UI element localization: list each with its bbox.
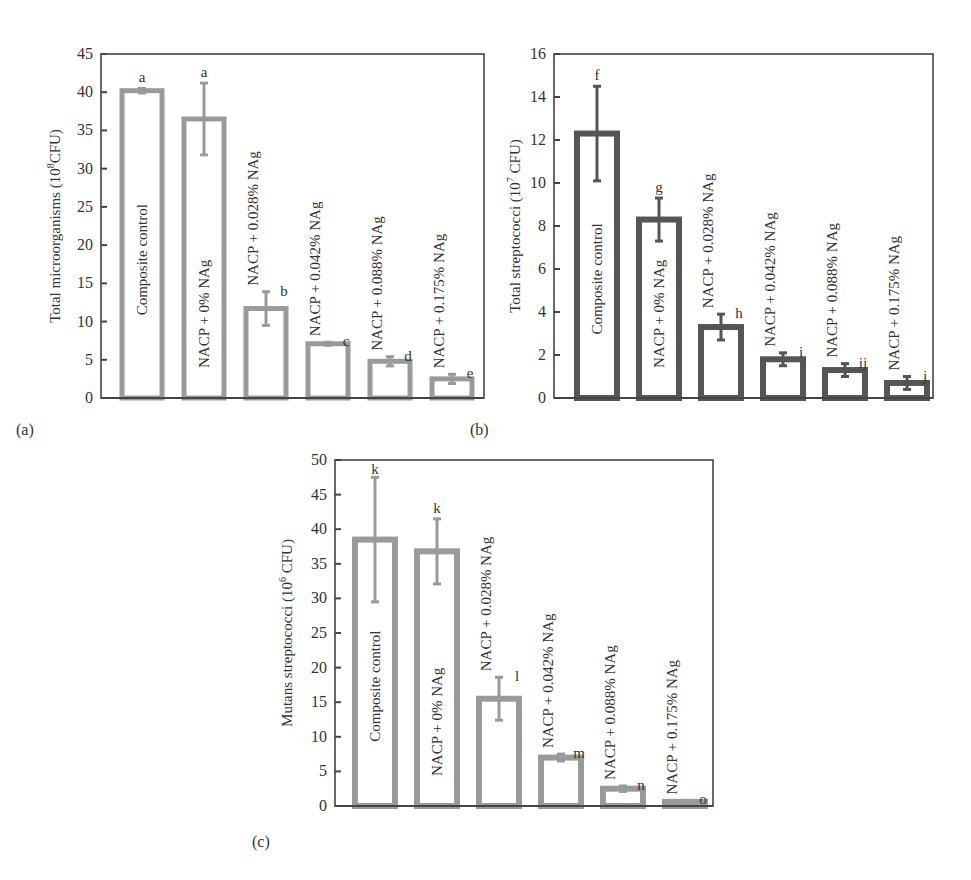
y-tick-label: 20	[311, 659, 327, 676]
chart-a: 051015202530354045Total microorganisms (…	[16, 45, 484, 439]
y-tick-label: 8	[538, 217, 546, 234]
panel-label: (a)	[16, 421, 34, 439]
bar-2: NACP + 0% NAga	[184, 64, 224, 398]
y-tick-label: 10	[77, 313, 93, 330]
bar-5: NACP + 0.088% NAgd	[369, 216, 412, 398]
y-tick-label: 0	[85, 389, 93, 406]
category-label: NACP + 0.028% NAg	[478, 536, 494, 671]
y-tick-label: 14	[530, 88, 546, 105]
y-tick-label: 30	[77, 160, 93, 177]
category-label: NACP + 0.088% NAg	[824, 223, 840, 358]
significance-letter: f	[595, 67, 600, 83]
bar-6: NACP + 0.175% NAgj	[886, 235, 927, 398]
bar-chart-total-microorganisms: 051015202530354045Total microorganisms (…	[0, 0, 971, 880]
y-tick-label: 0	[538, 389, 546, 406]
significance-letter: k	[371, 461, 379, 477]
category-label: NACP + 0% NAg	[429, 667, 445, 776]
category-label: NACP + 0.042% NAg	[307, 201, 323, 336]
y-tick-label: 20	[77, 236, 93, 253]
bar-4: NACP + 0.042% NAgi	[762, 212, 803, 398]
category-label: NACP + 0% NAg	[651, 259, 667, 368]
bar-5: NACP + 0.088% NAgij	[824, 223, 867, 398]
y-tick-label: 45	[311, 486, 327, 503]
category-label: NACP + 0.088% NAg	[369, 216, 385, 351]
significance-letter: k	[433, 500, 441, 516]
bar-3: NACP + 0.028% NAgh	[700, 173, 743, 398]
bar-4: NACP + 0.042% NAgc	[307, 201, 350, 398]
significance-letter: m	[573, 745, 585, 761]
bar-6: NACP + 0.175% NAgo	[664, 659, 707, 807]
y-tick-label: 25	[311, 624, 327, 641]
bar-3: NACP + 0.028% NAgb	[245, 151, 288, 398]
bar-3: NACP + 0.028% NAgl	[478, 536, 519, 806]
y-tick-label: 30	[311, 589, 327, 606]
y-tick-label: 10	[311, 728, 327, 745]
y-tick-label: 15	[311, 693, 327, 710]
y-tick-label: 35	[77, 121, 93, 138]
y-tick-label: 35	[311, 555, 327, 572]
panel-label: (c)	[252, 833, 270, 851]
bar-1: Composite controlf	[577, 67, 617, 398]
y-tick-label: 4	[538, 303, 546, 320]
y-tick-label: 45	[77, 45, 93, 62]
category-label: NACP + 0.028% NAg	[245, 151, 261, 286]
bar-6: NACP + 0.175% NAge	[431, 233, 474, 398]
y-tick-label: 5	[85, 351, 93, 368]
category-label: NACP + 0.088% NAg	[602, 645, 618, 780]
panel-label: (b)	[470, 421, 489, 439]
y-tick-label: 15	[77, 274, 93, 291]
y-tick-label: 6	[538, 260, 546, 277]
y-tick-label: 50	[311, 451, 327, 468]
chart-c: 05101520253035404550Mutans streptococci …	[252, 451, 713, 851]
bar-1: Composite controla	[122, 69, 162, 398]
bar-4: NACP + 0.042% NAgm	[540, 613, 585, 806]
significance-letter: c	[343, 333, 350, 349]
significance-letter: b	[280, 283, 288, 299]
category-label: NACP + 0.042% NAg	[540, 613, 556, 748]
significance-letter: j	[922, 368, 927, 384]
category-label: NACP + 0.175% NAg	[664, 659, 680, 794]
y-tick-label: 2	[538, 346, 546, 363]
bar-1: Composite controlk	[355, 461, 395, 806]
category-label: Composite control	[589, 223, 605, 334]
y-axis-label: Total microorganisms (108CFU)	[45, 129, 64, 323]
y-tick-label: 40	[311, 520, 327, 537]
significance-letter: i	[799, 344, 803, 360]
y-tick-label: 16	[530, 45, 546, 62]
bar-5: NACP + 0.088% NAgn	[602, 645, 645, 806]
y-tick-label: 40	[77, 83, 93, 100]
significance-letter: a	[201, 64, 208, 80]
y-axis-label: Total streptococci (107 CFU)	[505, 139, 524, 313]
category-label: NACP + 0.028% NAg	[700, 173, 716, 308]
y-tick-label: 5	[319, 762, 327, 779]
category-label: NACP + 0% NAg	[196, 259, 212, 368]
category-label: NACP + 0.042% NAg	[762, 212, 778, 347]
category-label: Composite control	[134, 204, 150, 315]
significance-letter: a	[139, 69, 146, 85]
category-label: NACP + 0.175% NAg	[431, 233, 447, 368]
chart-b: 0246810121416Total streptococci (107 CFU…	[470, 45, 933, 439]
significance-letter: n	[637, 777, 645, 793]
significance-letter: ij	[859, 355, 867, 371]
y-tick-label: 10	[530, 174, 546, 191]
y-tick-label: 0	[319, 797, 327, 814]
category-label: Composite control	[367, 630, 383, 741]
significance-letter: d	[404, 348, 412, 364]
significance-letter: h	[735, 305, 743, 321]
significance-letter: l	[515, 668, 519, 684]
significance-letter: g	[655, 179, 663, 195]
category-label: NACP + 0.175% NAg	[886, 235, 902, 370]
bar-2: NACP + 0% NAgg	[639, 179, 679, 398]
y-tick-label: 25	[77, 198, 93, 215]
bar-2: NACP + 0% NAgk	[417, 500, 457, 806]
y-tick-label: 12	[530, 131, 546, 148]
significance-letter: e	[467, 365, 474, 381]
y-axis-label: Mutans streptococci (106 CFU)	[277, 539, 296, 727]
